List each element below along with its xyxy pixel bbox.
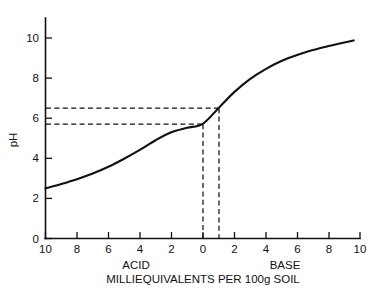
y-tick-label-8: 8 (33, 72, 39, 84)
y-tick-label-6: 6 (33, 112, 39, 124)
y-axis-title: pH (7, 133, 19, 148)
y-tick-labels: 0 2 4 6 8 10 (26, 32, 39, 245)
ph-curve (46, 40, 354, 188)
x-tick-label-acid-6: 6 (105, 243, 111, 255)
x-tick-label-acid-8: 8 (74, 243, 80, 255)
y-tick-label-0: 0 (33, 233, 39, 245)
x-tick-label-base-2: 2 (231, 243, 237, 255)
y-tick-label-10: 10 (26, 32, 39, 44)
acid-region-label: ACID (122, 259, 149, 271)
x-tick-label-base-8: 8 (326, 243, 332, 255)
x-tick-label-base-4: 4 (263, 243, 270, 255)
x-tick-label-base-6: 6 (294, 243, 300, 255)
y-tick-marks (46, 38, 53, 239)
y-tick-label-2: 2 (33, 192, 39, 204)
x-tick-label-acid-4: 4 (137, 243, 144, 255)
ph-titration-chart: 0 2 4 6 8 10 10 8 6 4 2 0 (0, 0, 377, 291)
x-tick-label-acid-2: 2 (168, 243, 174, 255)
y-tick-label-4: 4 (33, 152, 40, 164)
x-tick-labels: 10 8 6 4 2 0 2 4 6 8 10 (39, 243, 366, 255)
chart-canvas: 0 2 4 6 8 10 10 8 6 4 2 0 (0, 0, 377, 291)
x-tick-label-acid-10: 10 (39, 243, 52, 255)
base-region-label: BASE (270, 259, 301, 271)
x-axis-title: MILLIEQUIVALENTS PER 100g SOIL (106, 273, 300, 285)
x-tick-label-0: 0 (200, 243, 206, 255)
x-tick-label-base-10: 10 (354, 243, 367, 255)
